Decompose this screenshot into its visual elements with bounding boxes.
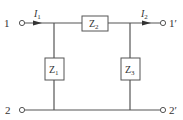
current-i2-arrow-icon xyxy=(142,21,151,26)
terminal-1-circle xyxy=(19,20,24,25)
current-i2-label: I2 xyxy=(140,8,148,21)
terminal-2-circle xyxy=(19,107,24,112)
terminal-2p-label: 2′ xyxy=(169,104,177,116)
z3-sub: 3 xyxy=(131,69,135,77)
impedance-z1: Z1 xyxy=(45,58,64,80)
z2-sub: 2 xyxy=(95,23,99,31)
circuit-diagram: Z2 Z1 Z3 1 1′ 2 2′ I1 I2 xyxy=(0,0,183,120)
terminal-2p-circle xyxy=(160,107,165,112)
terminal-2-label: 2 xyxy=(5,104,11,116)
terminal-1-label: 1 xyxy=(4,17,10,29)
terminal-1p-circle xyxy=(160,20,165,25)
impedance-z2: Z2 xyxy=(82,16,108,31)
terminal-1p-label: 1′ xyxy=(169,17,177,29)
z1-sub: 1 xyxy=(55,69,59,77)
i2-sub: 2 xyxy=(144,13,148,21)
current-i1-arrow-icon xyxy=(33,21,42,26)
current-i1-label: I1 xyxy=(33,8,41,21)
impedance-z3: Z3 xyxy=(121,58,140,80)
i1-sub: 1 xyxy=(37,13,41,21)
